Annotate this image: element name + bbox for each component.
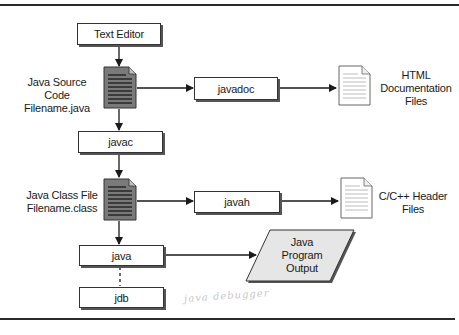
text-editor-node: Text Editor (77, 23, 161, 45)
c-headers-caption: C/C++ Header Files (378, 190, 448, 216)
connector-layer (0, 0, 459, 335)
javadoc-node: javadoc (194, 77, 278, 100)
source-file-icon (104, 67, 136, 108)
jdb-node: jdb (79, 287, 164, 308)
program-output-caption: Java Program Output (264, 236, 340, 275)
javah-node: javah (194, 191, 280, 213)
header-files-icon (341, 178, 372, 218)
java-label: java (112, 250, 131, 262)
text-editor-label: Text Editor (94, 28, 144, 40)
java-tools-diagram: Text Editor javadoc javac javah java jdb… (0, 0, 459, 335)
javac-node: javac (78, 131, 163, 153)
class-file-caption: Java Class File Filename.class (24, 189, 100, 215)
javac-label: javac (108, 136, 133, 148)
source-code-caption: Java Source Code Filename.java (14, 76, 100, 115)
html-docs-icon (339, 66, 370, 105)
javadoc-label: javadoc (218, 83, 255, 95)
jdb-label: jdb (114, 292, 128, 304)
javah-label: javah (224, 196, 249, 208)
java-node: java (79, 245, 164, 266)
html-docs-caption: HTML Documentation Files (376, 69, 456, 108)
class-file-icon (104, 179, 136, 220)
